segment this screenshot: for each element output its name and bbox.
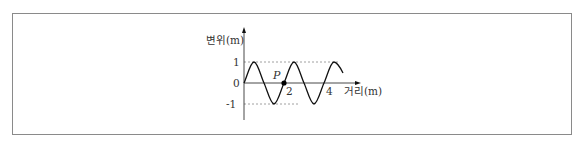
x-tick-2: 2 [286,85,293,97]
point-p-label: P [272,69,281,82]
wave-graph: 변위(m) 1 0 -1 P 2 4 거리(m) [0,0,583,149]
y-axis-arrow-icon [242,27,246,33]
y-axis-label: 변위(m) [206,34,244,46]
y-tick-0: 0 [233,77,240,89]
x-axis-label: 거리(m) [344,85,382,97]
y-tick-minus-1: -1 [226,98,236,110]
y-tick-1: 1 [233,56,240,68]
x-tick-4: 4 [326,85,333,97]
